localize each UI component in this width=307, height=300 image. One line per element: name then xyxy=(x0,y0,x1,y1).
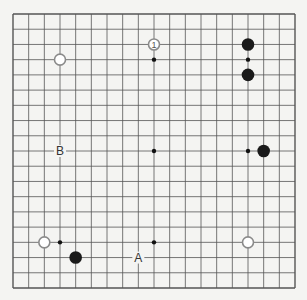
point-label-b: B xyxy=(56,144,64,158)
black-stone[interactable] xyxy=(242,38,255,51)
star-point xyxy=(246,57,250,61)
star-point xyxy=(152,57,156,61)
go-board-diagram: 1BA xyxy=(0,0,307,300)
white-stone[interactable] xyxy=(39,237,50,248)
star-point xyxy=(152,240,156,244)
star-point xyxy=(58,240,62,244)
black-stone[interactable] xyxy=(242,69,255,82)
go-board[interactable]: 1BA xyxy=(0,0,307,300)
star-point xyxy=(152,149,156,153)
white-stone[interactable] xyxy=(243,237,254,248)
black-stone[interactable] xyxy=(69,251,82,264)
star-point xyxy=(246,149,250,153)
move-number-label: 1 xyxy=(151,40,156,50)
white-stone[interactable] xyxy=(55,54,66,65)
black-stone[interactable] xyxy=(257,145,270,158)
point-label-a: A xyxy=(134,251,142,265)
